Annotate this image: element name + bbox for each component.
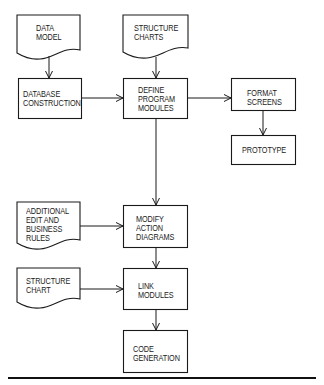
node-label: RULES [26,234,50,243]
node-label: PROTOTYPE [242,146,286,155]
node-label: MODEL [36,33,62,42]
flowchart-canvas [0,0,324,385]
node-label: SCREENS [247,98,282,107]
node-label: MODULES [138,104,174,113]
link-modules-box [124,269,188,310]
node-label: DIAGRAMS [136,233,174,242]
node-label: CHARTS [134,33,163,42]
node-label: CHART [26,286,51,295]
node-label: GENERATION [133,354,180,363]
node-label: MODULES [138,291,174,300]
node-label: CONSTRUCTION [23,99,81,108]
